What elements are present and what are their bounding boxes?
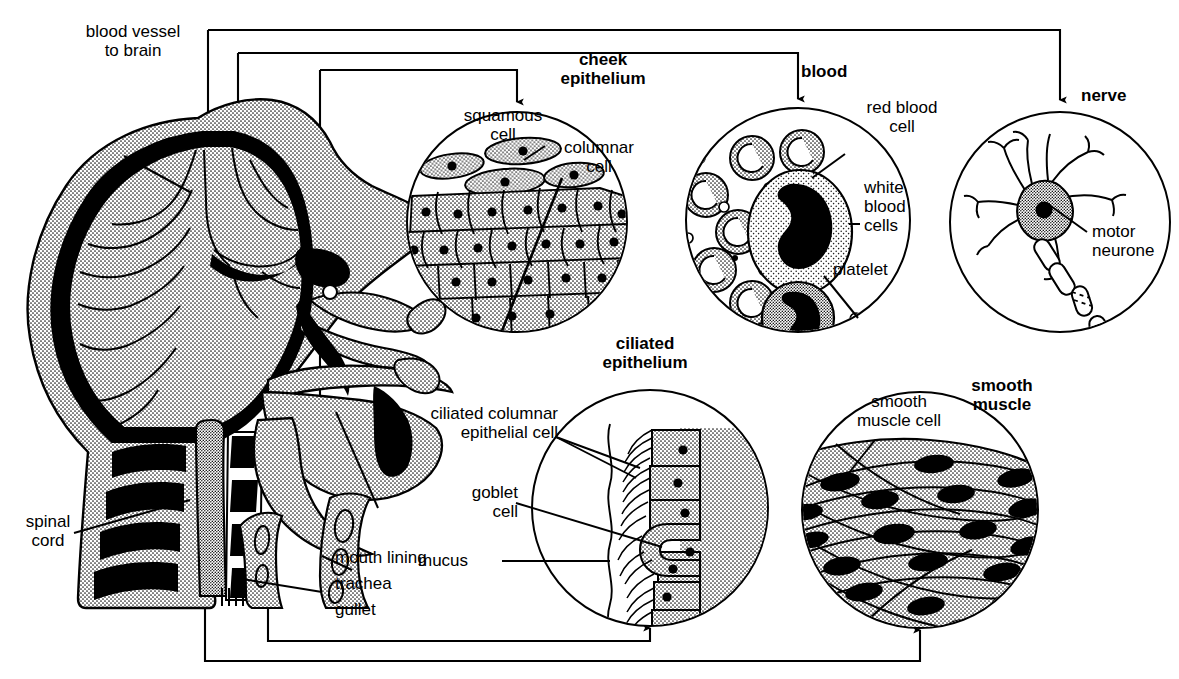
- label-platelet: platelet: [833, 260, 888, 279]
- label-motor-neurone: motor neurone: [1092, 222, 1154, 260]
- diagram-canvas: blood vessel to brain spinal cord mouth …: [0, 0, 1179, 679]
- label-red-blood-cell: red blood cell: [845, 98, 959, 136]
- panel-title-blood: blood: [801, 62, 847, 81]
- label-white-blood-cells: white blood cells: [864, 178, 906, 235]
- connector-lines-bottom: [205, 598, 920, 661]
- label-spinal-cord: spinal cord: [6, 512, 90, 550]
- label-ciliated-columnar-epithelial-cell: ciliated columnar epithelial cell: [386, 404, 558, 442]
- label-gullet: gullet: [335, 600, 376, 619]
- panel-title-nerve: nerve: [1081, 86, 1126, 105]
- label-blood-vessel-to-brain: blood vessel to brain: [58, 22, 208, 60]
- label-mouth-lining: mouth lining: [335, 548, 427, 567]
- panel-title-cheek-epithelium: cheek epithelium: [538, 50, 668, 88]
- label-smooth-muscle-cell: smooth muscle cell: [823, 392, 975, 430]
- panel-title-ciliated-epithelium: ciliated epithelium: [571, 334, 719, 372]
- head-sagittal-section: [28, 99, 452, 608]
- label-columnar-cell: columnar cell: [544, 138, 654, 176]
- label-goblet-cell: goblet cell: [428, 483, 518, 521]
- label-mucus: mucus: [418, 551, 468, 570]
- label-squamous-cell: squamous cell: [448, 106, 558, 144]
- label-trachea: trachea: [335, 574, 392, 593]
